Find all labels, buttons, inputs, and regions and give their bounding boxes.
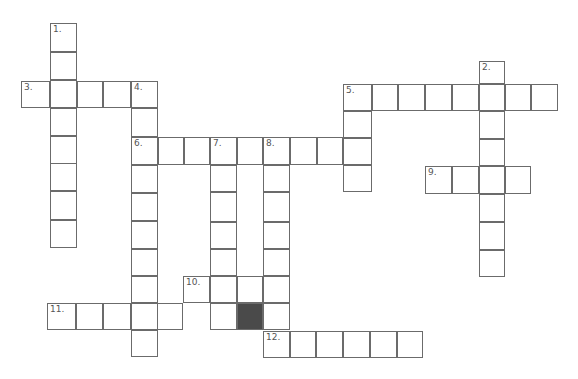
clue-number: 9. [428,168,437,177]
grid-cell[interactable]: 6. [131,137,158,165]
grid-cell[interactable]: 11. [47,303,76,330]
grid-cell[interactable] [263,249,290,276]
grid-cell[interactable] [131,249,158,276]
grid-cell[interactable] [263,222,290,249]
grid-cell[interactable] [290,331,316,358]
grid-cell[interactable] [316,331,343,358]
clue-number: 11. [50,305,64,314]
grid-cell[interactable] [50,80,77,108]
grid-cell[interactable] [237,276,263,303]
grid-cell[interactable] [50,108,77,136]
grid-cell[interactable] [479,84,505,111]
grid-cell[interactable] [343,331,370,358]
grid-cell[interactable] [131,193,158,221]
grid-cell[interactable] [184,137,210,165]
grid-cell[interactable] [452,166,479,194]
grid-cell[interactable] [452,84,479,111]
clue-number: 6. [134,139,143,148]
grid-cell[interactable]: 2. [479,61,505,84]
grid-cell[interactable] [263,303,290,330]
clue-number: 4. [134,83,143,92]
grid-cell[interactable] [158,137,184,165]
grid-cell[interactable] [372,84,398,111]
clue-number: 5. [346,86,355,95]
clue-number: 10. [186,278,200,287]
grid-cell[interactable] [131,165,158,193]
grid-cell[interactable] [131,303,158,330]
grid-cell[interactable]: 1. [50,23,77,52]
grid-cell[interactable] [50,52,77,80]
grid-cell[interactable] [370,331,397,358]
grid-cell[interactable] [131,108,158,137]
grid-cell[interactable] [103,303,131,330]
grid-cell[interactable]: 7. [210,137,237,165]
grid-cell[interactable] [131,221,158,249]
grid-cell[interactable] [343,111,372,138]
grid-cell[interactable]: 5. [343,84,372,111]
grid-cell[interactable] [210,249,237,276]
grid-cell[interactable] [505,84,531,111]
grid-cell[interactable] [479,139,505,166]
grid-cell[interactable]: 9. [425,166,452,194]
grid-cell[interactable] [131,330,158,357]
grid-cell[interactable] [210,276,237,303]
grid-cell[interactable] [103,81,131,108]
grid-cell[interactable]: 10. [183,276,210,303]
grid-cell[interactable] [210,165,237,192]
grid-cell[interactable] [50,220,77,248]
grid-cell[interactable] [397,331,423,358]
grid-cell[interactable] [425,84,452,111]
clue-number: 2. [482,63,491,72]
grid-cell[interactable] [77,81,103,108]
grid-cell[interactable]: 4. [131,81,158,108]
clue-number: 7. [213,139,222,148]
grid-cell[interactable] [157,303,183,330]
grid-cell[interactable] [50,191,77,220]
grid-cell[interactable] [479,166,505,194]
grid-cell[interactable] [263,276,290,303]
grid-cell[interactable] [210,222,237,249]
grid-cell[interactable] [479,194,505,222]
grid-cell[interactable] [210,303,237,330]
grid-cell[interactable] [210,192,237,222]
grid-cell[interactable] [237,137,263,165]
grid-cell[interactable]: 12. [263,331,290,358]
grid-cell[interactable] [531,84,558,111]
grid-cell[interactable] [479,111,505,139]
grid-cell[interactable] [479,222,505,250]
grid-cell[interactable] [263,192,290,222]
grid-cell[interactable] [398,84,425,111]
grid-cell[interactable]: 3. [21,81,50,108]
crossword-grid: 1.3.4.6.7.8.5.2.9.10.11.12. [0,0,578,379]
clue-number: 3. [24,83,33,92]
clue-number: 1. [53,25,62,34]
grid-cell[interactable] [317,137,343,165]
grid-cell[interactable] [479,250,505,277]
grid-cell[interactable] [50,163,77,191]
grid-cell[interactable] [290,137,317,165]
grid-cell[interactable]: 8. [263,137,290,165]
grid-cell[interactable] [50,136,77,164]
grid-cell[interactable] [263,165,290,192]
grid-cell[interactable] [76,303,103,330]
clue-number: 8. [266,139,275,148]
clue-number: 12. [266,333,280,342]
grid-cell[interactable] [343,138,372,165]
grid-cell[interactable] [343,165,372,192]
grid-cell[interactable] [131,276,158,303]
shaded-cell [237,303,263,330]
grid-cell[interactable] [505,166,531,194]
